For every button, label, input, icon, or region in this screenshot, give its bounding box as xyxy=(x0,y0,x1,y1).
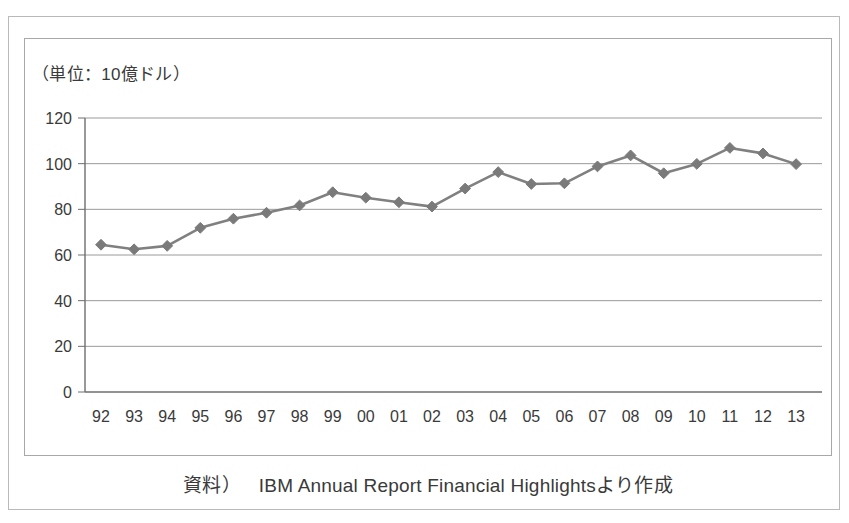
x-axis-tick-label: 96 xyxy=(225,408,243,425)
data-point-marker xyxy=(360,192,371,203)
x-axis-tick-label: 03 xyxy=(456,408,474,425)
y-axis-tick-label: 80 xyxy=(54,201,72,218)
x-axis-tick-label: 00 xyxy=(357,408,375,425)
data-point-marker xyxy=(592,161,603,172)
x-axis-tick-label: 05 xyxy=(522,408,540,425)
data-point-marker xyxy=(625,150,636,161)
x-axis-tick-label: 93 xyxy=(125,408,143,425)
data-point-marker xyxy=(427,201,438,212)
x-axis-tick-label: 04 xyxy=(489,408,507,425)
x-axis-tick-label: 09 xyxy=(655,408,673,425)
x-axis-tick-label: 11 xyxy=(722,408,739,425)
x-axis-tick-label: 12 xyxy=(754,408,772,425)
x-axis-tick-label: 94 xyxy=(158,408,176,425)
caption-text: IBM Annual Report Financial Highlightsより… xyxy=(259,470,673,497)
y-axis-tick-label: 60 xyxy=(54,247,72,264)
gridlines-group xyxy=(85,118,822,346)
x-axis-tick-label: 99 xyxy=(324,408,342,425)
x-axis-tick-label: 97 xyxy=(258,408,276,425)
y-axis-tick-label: 100 xyxy=(45,156,72,173)
data-point-marker xyxy=(394,197,405,208)
x-axis-tick-label: 13 xyxy=(787,408,805,425)
caption-source-label: 資料） xyxy=(183,470,241,497)
data-point-marker xyxy=(460,183,471,194)
data-point-marker xyxy=(228,213,239,224)
x-axis-tick-label: 07 xyxy=(589,408,607,425)
data-point-marker xyxy=(327,187,338,198)
tick-labels-group: 0204060801001209293949596979899000102030… xyxy=(45,110,805,425)
data-point-marker xyxy=(658,168,669,179)
x-axis-tick-label: 01 xyxy=(390,408,408,425)
data-point-marker xyxy=(96,239,107,250)
caption: 資料） IBM Annual Report Financial Highligh… xyxy=(183,470,673,497)
data-point-marker xyxy=(526,179,537,190)
y-axis-tick-label: 0 xyxy=(63,384,72,401)
series-group xyxy=(96,143,802,255)
x-axis-tick-label: 92 xyxy=(92,408,110,425)
x-axis-tick-label: 95 xyxy=(191,408,209,425)
data-point-marker xyxy=(791,159,802,170)
data-point-marker xyxy=(725,143,736,154)
y-axis-tick-label: 20 xyxy=(54,338,72,355)
x-axis-tick-label: 06 xyxy=(556,408,574,425)
x-axis-tick-label: 98 xyxy=(291,408,309,425)
figure-page: （単位：10億ドル） 02040608010012092939495969798… xyxy=(0,0,849,523)
data-point-marker xyxy=(493,167,504,178)
caption-row: 資料） IBM Annual Report Financial Highligh… xyxy=(24,456,832,510)
line-chart: 0204060801001209293949596979899000102030… xyxy=(24,38,832,456)
y-axis-tick-label: 40 xyxy=(54,293,72,310)
data-point-marker xyxy=(559,178,570,189)
data-point-marker xyxy=(129,244,140,255)
data-point-marker xyxy=(758,148,769,159)
x-axis-tick-label: 10 xyxy=(688,408,706,425)
y-axis-tick-label: 120 xyxy=(45,110,72,127)
x-axis-tick-label: 02 xyxy=(423,408,441,425)
data-point-marker xyxy=(691,158,702,169)
data-point-marker xyxy=(162,240,173,251)
data-point-marker xyxy=(195,222,206,233)
x-axis-tick-label: 08 xyxy=(622,408,640,425)
